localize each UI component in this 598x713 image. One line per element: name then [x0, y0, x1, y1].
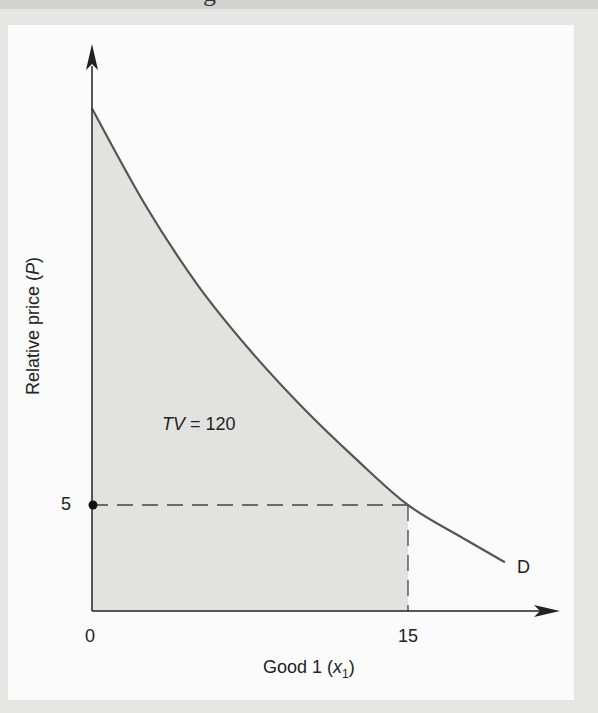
total-value-annotation: TV = 120	[162, 414, 236, 435]
price-point-dot	[89, 501, 98, 510]
x-axis-label: Good 1 (x1)	[263, 657, 355, 681]
y-axis-label: Relative price (P)	[23, 257, 44, 395]
shaded-total-value-area	[92, 109, 408, 611]
demand-curve-label: D	[517, 557, 530, 578]
x-tick-0: 0	[85, 626, 95, 647]
chart-svg	[0, 0, 598, 713]
plot-area	[86, 44, 560, 617]
x-tick-15: 15	[398, 626, 418, 647]
y-tick-5: 5	[61, 494, 71, 515]
